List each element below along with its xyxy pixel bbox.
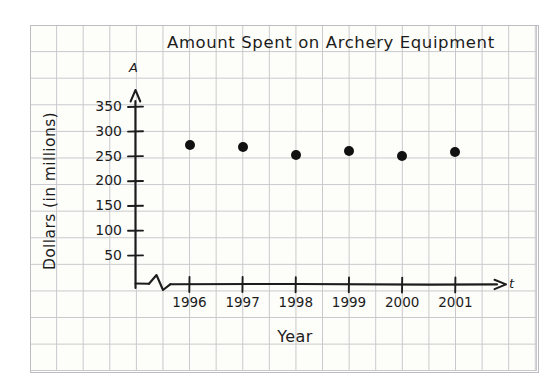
x-axis-variable-label: t <box>509 276 515 291</box>
chart-title: Amount Spent on Archery Equipment <box>167 33 495 52</box>
y-axis-variable-label: A <box>129 60 138 75</box>
y-tick-label-200: 200 <box>78 172 122 188</box>
chart-screenshot: Amount Spent on Archery Equipment A t Do… <box>0 0 560 384</box>
y-tick-label-150: 150 <box>78 197 122 213</box>
y-tick-label-350: 350 <box>78 98 122 114</box>
x-tick-label-1998: 1998 <box>270 294 322 310</box>
x-tick-label-1997: 1997 <box>217 294 269 310</box>
x-axis-title: Year <box>277 327 312 346</box>
x-tick-label-1996: 1996 <box>164 294 216 310</box>
x-tick-label-1999: 1999 <box>323 294 375 310</box>
y-tick-label-100: 100 <box>78 222 122 238</box>
data-point-1998 <box>291 150 301 160</box>
y-tick-label-250: 250 <box>78 148 122 164</box>
y-axis-title: Dollars (in millions) <box>41 91 59 291</box>
x-tick-label-2000: 2000 <box>376 294 428 310</box>
y-tick-label-300: 300 <box>78 123 122 139</box>
y-tick-label-50: 50 <box>78 247 122 263</box>
data-point-1996 <box>185 140 195 150</box>
x-tick-label-2001: 2001 <box>429 294 481 310</box>
